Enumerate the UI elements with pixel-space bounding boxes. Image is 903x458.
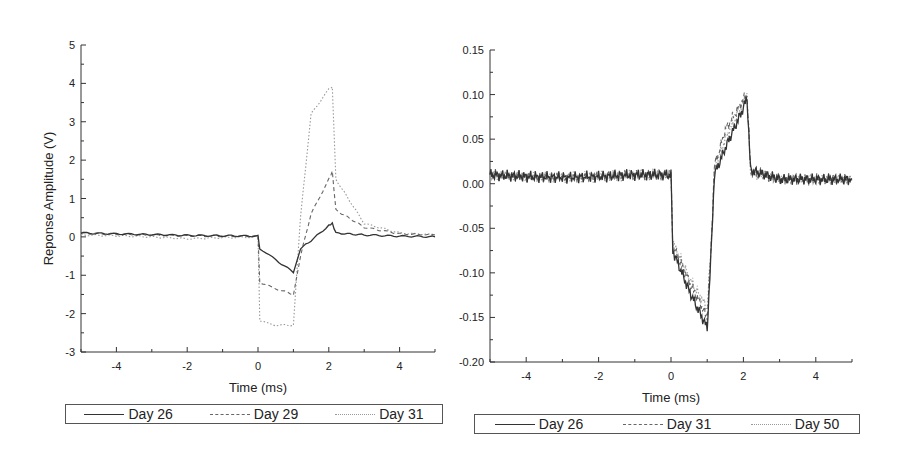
y-tick-label: 4: [69, 77, 75, 89]
legend-item-day29: Day 29: [210, 406, 298, 422]
x-tick-label: -4: [521, 370, 531, 382]
x-tick-label: -4: [112, 360, 122, 372]
y-tick-label: 0.15: [463, 44, 484, 56]
legend-label: Day 50: [795, 416, 839, 432]
x-tick-label: -2: [182, 360, 192, 372]
x-tick-label: 4: [397, 360, 403, 372]
y-tick-label: 0.05: [463, 133, 484, 145]
legend-label: Day 26: [539, 416, 583, 432]
solid-line-swatch: [84, 414, 124, 415]
x-tick-label: 0: [668, 370, 674, 382]
legend-item-day26: Day 26: [84, 406, 172, 422]
series-line-day-29: [81, 171, 435, 295]
x-tick-label: 4: [813, 370, 819, 382]
legend-item-day26: Day 26: [495, 416, 583, 432]
legend-label: Day 26: [128, 406, 172, 422]
x-tick-label: 2: [326, 360, 332, 372]
dashed-line-swatch: [623, 424, 663, 425]
y-tick-label: -2: [65, 308, 75, 320]
left-chart-legend: Day 26 Day 29 Day 31: [65, 404, 443, 424]
y-tick-label: 1: [69, 193, 75, 205]
x-axis-label: Time (ms): [642, 390, 700, 405]
x-tick-label: -2: [594, 370, 604, 382]
series-line-day-31: [81, 87, 435, 326]
legend-label: Day 31: [667, 416, 711, 432]
y-tick-label: -0.15: [459, 311, 484, 323]
y-tick-label: 0: [69, 231, 75, 243]
y-tick-label: 0.10: [463, 89, 484, 101]
y-tick-label: -3: [65, 346, 75, 358]
y-tick-label: -1: [65, 269, 75, 281]
solid-line-swatch: [495, 424, 535, 425]
series-line-day-31: [490, 93, 852, 321]
right-chart-legend: Day 26 Day 31 Day 50: [474, 414, 860, 434]
series-line-day-26: [490, 97, 852, 331]
x-axis-label: Time (ms): [229, 380, 287, 395]
legend-item-day31: Day 31: [623, 416, 711, 432]
legend-item-day31: Day 31: [335, 406, 423, 422]
dashed-line-swatch: [210, 414, 250, 415]
y-tick-label: 2: [69, 154, 75, 166]
series-line-day-50: [490, 93, 852, 310]
legend-label: Day 31: [379, 406, 423, 422]
y-axis-label: Reponse Amplitude (V): [41, 132, 56, 266]
dotted-line-swatch: [751, 424, 791, 425]
legend-item-day50: Day 50: [751, 416, 839, 432]
y-tick-label: 5: [69, 39, 75, 51]
dotted-line-swatch: [335, 414, 375, 415]
series-line-day-26: [81, 223, 435, 273]
legend-label: Day 29: [254, 406, 298, 422]
y-tick-label: -0.05: [459, 222, 484, 234]
y-tick-label: -0.10: [459, 267, 484, 279]
left-chart: 543210-1-2-3-4-2024Time (ms)Reponse Ampl…: [0, 30, 450, 430]
x-tick-label: 2: [740, 370, 746, 382]
right-chart: 0.150.100.050.00-0.05-0.10-0.15-0.20-4-2…: [450, 30, 903, 450]
y-tick-label: 3: [69, 116, 75, 128]
y-tick-label: -0.20: [459, 356, 484, 368]
y-tick-label: 0.00: [463, 178, 484, 190]
x-tick-label: 0: [255, 360, 261, 372]
